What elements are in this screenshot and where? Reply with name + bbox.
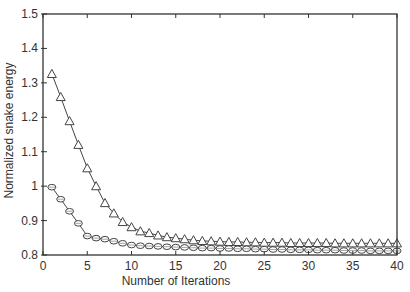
triangle-marker bbox=[100, 199, 109, 207]
x-tick-labels: 0510152025303540 bbox=[40, 259, 404, 273]
series-line bbox=[52, 74, 397, 243]
x-tick-label: 35 bbox=[346, 259, 360, 273]
y-axis-label: Normalized snake energy bbox=[2, 62, 16, 198]
y-tick-label: 1.3 bbox=[21, 76, 38, 90]
triangle-marker bbox=[74, 140, 83, 148]
y-tick-label: 1.4 bbox=[21, 41, 38, 55]
y-tick-label: 0.8 bbox=[21, 248, 38, 262]
y-tick-label: 1 bbox=[31, 179, 38, 193]
y-tick-label: 1.2 bbox=[21, 110, 38, 124]
y-tick-label: 1.1 bbox=[21, 145, 38, 159]
x-tick-label: 10 bbox=[125, 259, 139, 273]
x-tick-label: 40 bbox=[390, 259, 404, 273]
x-axis-label: Number of Iterations bbox=[122, 274, 231, 288]
x-tick-label: 20 bbox=[213, 259, 227, 273]
y-tick-label: 1.5 bbox=[21, 7, 38, 21]
x-tick-label: 0 bbox=[40, 259, 47, 273]
triangle-marker bbox=[65, 117, 74, 125]
triangle-marker bbox=[127, 223, 136, 231]
triangle-marker bbox=[47, 69, 56, 77]
triangle-series bbox=[47, 69, 401, 246]
x-tick-label: 25 bbox=[258, 259, 272, 273]
triangle-marker bbox=[92, 182, 101, 190]
plot-series bbox=[47, 69, 401, 253]
triangle-marker bbox=[136, 227, 145, 235]
x-tick-label: 30 bbox=[302, 259, 316, 273]
plot-frame bbox=[43, 14, 397, 255]
y-tick-label: 0.9 bbox=[21, 214, 38, 228]
y-tick-labels: 0.80.911.11.21.31.41.5 bbox=[21, 7, 38, 262]
triangle-marker bbox=[83, 164, 92, 172]
x-tick-label: 15 bbox=[169, 259, 183, 273]
triangle-marker bbox=[56, 92, 65, 100]
x-tick-label: 5 bbox=[84, 259, 91, 273]
axis-ticks bbox=[41, 14, 397, 255]
line-chart: 0510152025303540 0.80.911.11.21.31.41.5 … bbox=[0, 0, 410, 292]
